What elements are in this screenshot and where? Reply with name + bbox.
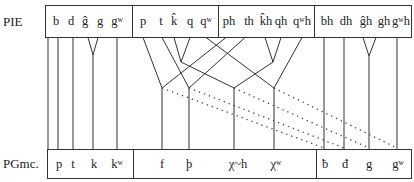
pie-qh: qh <box>275 14 288 29</box>
sound-change-diagram: PIE PGmc. b d ĝ g gʷ p t k̂ q qʷ ph th k… <box>0 0 414 182</box>
pgmc-p: p <box>56 157 62 172</box>
pie-gh-palatal: ĝh <box>360 14 373 29</box>
pgmc-chi-h: χ~h <box>229 157 248 172</box>
pie-g: g <box>97 14 103 29</box>
pie-gw: gʷ <box>111 14 123 29</box>
pie-d: d <box>68 14 74 29</box>
pie-p: p <box>140 14 146 29</box>
pgmc-g: g <box>366 157 372 172</box>
pie-t: t <box>159 14 162 29</box>
dotted-lines <box>162 88 397 148</box>
pie-qwh: qʷh <box>293 14 311 29</box>
pgmc-d-stroke: đ <box>342 157 348 172</box>
pgmc-t: t <box>71 157 74 172</box>
pgmc-k: k <box>91 157 97 172</box>
pie-q: q <box>187 14 193 29</box>
pie-bh: bh <box>321 14 334 29</box>
pie-th: th <box>244 14 254 29</box>
pgmc-thorn: þ <box>186 157 192 172</box>
pie-b: b <box>53 14 59 29</box>
pie-g-palatal: ĝ <box>82 14 88 29</box>
pgmc-gw: gʷ <box>392 157 404 172</box>
pie-qw: qʷ <box>200 14 212 29</box>
pie-gwh: gʷh <box>392 14 410 29</box>
pgmc-label: PGmc. <box>3 156 39 172</box>
pgmc-kw: kʷ <box>111 157 123 172</box>
pie-gh: gh <box>378 14 391 29</box>
pie-kh-palatal: k̂h <box>260 14 273 29</box>
pgmc-b-stroke: ƀ <box>322 157 328 172</box>
pie-label: PIE <box>3 14 23 30</box>
pie-ph: ph <box>223 14 236 29</box>
pgmc-chi-w: χʷ <box>271 157 282 172</box>
pgmc-f: f <box>160 157 164 172</box>
pie-dh: dh <box>340 14 353 29</box>
pie-k-palatal: k̂ <box>171 14 177 29</box>
